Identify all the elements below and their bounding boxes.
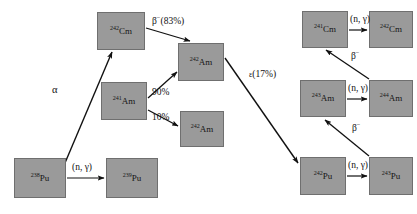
nuclide-box-am243[interactable]: 243Am [300,80,346,117]
beta-minus-sign: − [356,49,360,56]
nuclide-label-pu239: 239Pu [123,174,142,183]
nuclide-box-pu238[interactable]: 238Pu [14,158,66,198]
nuclide-label-pu238: 238Pu [31,174,50,183]
edge-label-alpha-decay: α [52,85,58,96]
nuclide-box-cm242-right[interactable]: 242Cm [369,11,413,48]
edge-label-beta-83: β−(83%) [152,17,184,27]
edge-label-pu238-pu239: (n, γ) [72,163,92,173]
nuclide-label-cm242-right: 242Cm [380,25,402,34]
beta-minus-sign: − [357,121,361,128]
decay-chain-diagram: 238Pu 239Pu 242Cm 241Am 242Am 242Am 241C… [0,0,417,214]
arrow-am243-to-cm241 [326,50,369,79]
edge-label-beta-cm241: β− [351,52,360,62]
edge-label-pu242-pu243: (n, γ) [348,161,368,171]
nuclide-label-am242m: 242Am [191,125,214,134]
nuclide-box-am244[interactable]: 244Am [369,80,413,117]
edge-label-cm241-cm242: (n, γ) [350,15,370,25]
nuclide-label-cm242: 242Cm [110,27,132,36]
nuclide-label-am241: 241Am [113,97,136,106]
nuclide-box-pu239[interactable]: 239Pu [106,158,158,198]
nuclide-label-am244: 244Am [380,94,403,103]
nuclide-box-am241[interactable]: 241Am [101,82,147,120]
edge-label-epsilon-17: ε(17%) [249,70,276,80]
nuclide-label-cm241: 241Cm [314,25,336,34]
nuclide-label-am242: 242Am [190,58,213,67]
nuclide-box-cm241[interactable]: 241Cm [302,11,348,48]
nuclide-box-am242m[interactable]: 242Am [180,111,224,147]
arrow-pu243-to-am243 [325,120,369,156]
nuclide-box-pu243[interactable]: 243Pu [369,157,413,195]
nuclide-box-cm242[interactable]: 242Cm [97,12,145,50]
nuclide-box-pu242[interactable]: 242Pu [300,157,346,195]
nuclide-label-am243: 243Am [312,94,335,103]
beta-83-percent: (83%) [161,16,185,26]
edge-label-branch-10: 10% [152,113,169,123]
edge-label-branch-90: 90% [152,88,169,98]
edge-label-am243-am244: (n, γ) [348,84,368,94]
nuclide-label-pu243: 243Pu [382,172,401,181]
nuclide-box-am242[interactable]: 242Am [178,43,224,81]
arrow-cm242-to-am242 [146,28,190,41]
nuclide-label-pu242: 242Pu [314,172,333,181]
epsilon-percent: (17%) [252,69,276,79]
edge-label-beta-am243: β− [352,124,361,134]
